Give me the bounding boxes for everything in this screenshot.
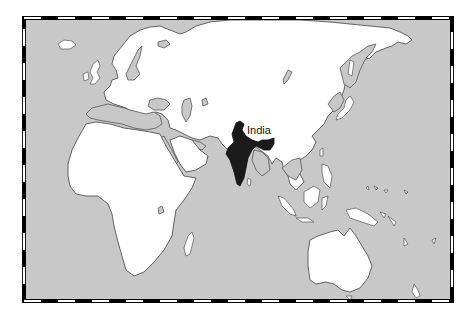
ireland: [83, 72, 89, 81]
world-map: India: [0, 0, 474, 315]
sri-lanka: [247, 178, 251, 186]
india-label: India: [247, 124, 272, 136]
